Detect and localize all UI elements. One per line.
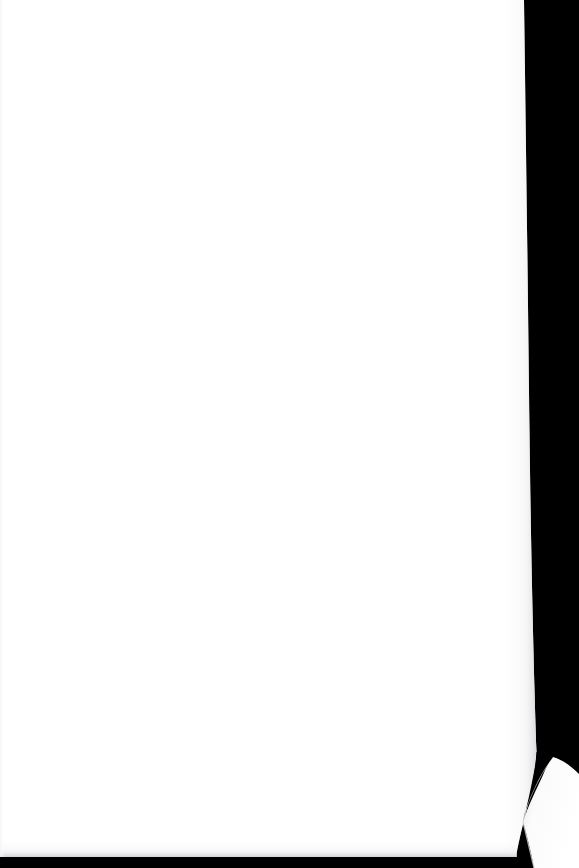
bottom-backdrop-band (0, 857, 516, 868)
page-surface (0, 0, 537, 857)
scan-canvas (0, 0, 579, 868)
left-edge-scan-seam (0, 0, 5, 857)
page-bottom-edge-shadow (0, 838, 517, 857)
scanned-document-viewport (0, 0, 579, 868)
